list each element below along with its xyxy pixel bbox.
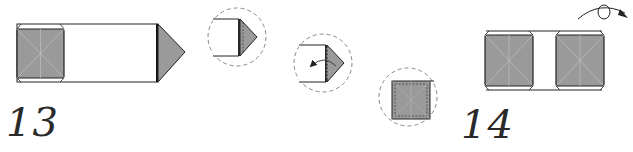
detail-view-1 [208, 8, 266, 66]
detail-view-3 [379, 68, 437, 126]
detail-view-2 [294, 34, 352, 92]
step13-strip [17, 24, 185, 82]
step14-two-squares [485, 31, 604, 90]
turn-over-arrow-icon [578, 5, 628, 19]
step-number-14: 14 [461, 104, 514, 144]
diagram-canvas [0, 0, 633, 152]
step-number-13: 13 [6, 102, 59, 142]
